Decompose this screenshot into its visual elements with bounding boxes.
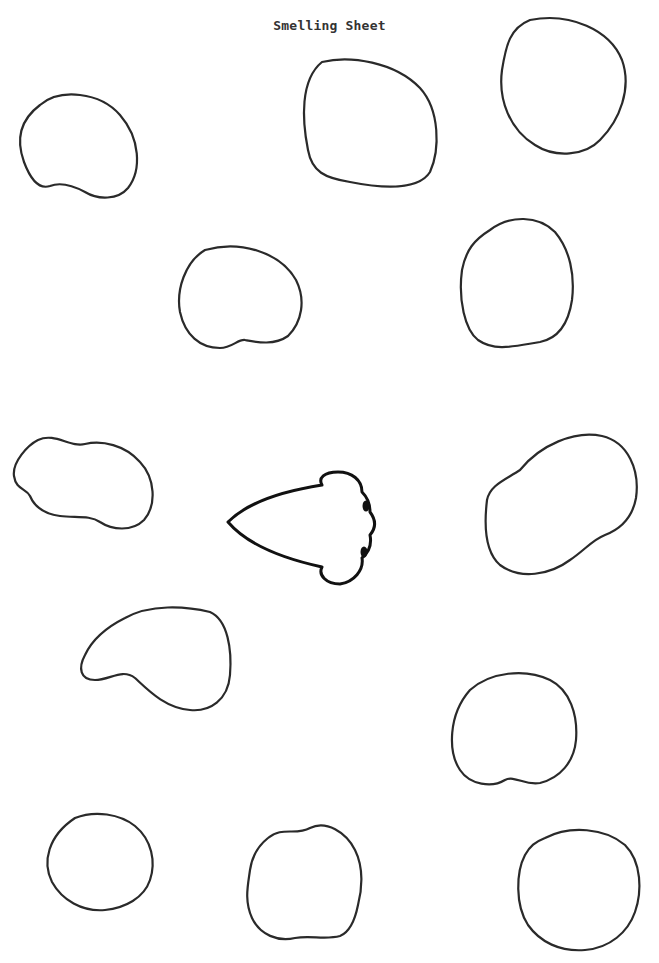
- blob-shape: [20, 95, 137, 198]
- blob-shape: [304, 59, 437, 186]
- blob-shape: [452, 673, 576, 784]
- blob-shape: [501, 18, 625, 153]
- blob-shape: [518, 830, 639, 950]
- nose-shape: [228, 472, 375, 584]
- blob-shape: [47, 814, 152, 910]
- nostril-bottom: [361, 547, 368, 558]
- blob-shape: [81, 607, 230, 710]
- blob-shape: [486, 435, 637, 574]
- blob-shape: [14, 438, 153, 529]
- shapes-canvas: [0, 0, 659, 963]
- blob-shape: [247, 825, 361, 939]
- blob-shape: [461, 219, 573, 347]
- blob-shape: [179, 247, 301, 348]
- nostril-top: [363, 501, 370, 512]
